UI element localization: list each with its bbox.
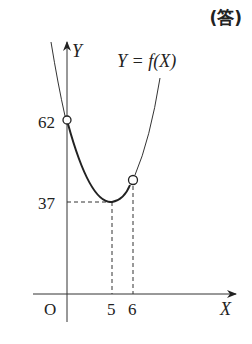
curve-left-branch (51, 42, 65, 116)
y-axis-label: Y (72, 41, 84, 61)
x-axis-label: X (219, 299, 232, 319)
y-tick-37: 37 (38, 194, 56, 213)
origin-label: O (44, 300, 56, 319)
x-tick-5: 5 (107, 300, 116, 319)
open-point-x0 (63, 116, 71, 124)
curve-label: Y = f(X) (117, 51, 176, 72)
y-tick-62: 62 (38, 113, 55, 132)
parabola-chart: Y Y = f(X) 62 37 O 5 6 X (0, 0, 252, 344)
open-point-x6 (129, 176, 138, 185)
curve-right-branch (135, 78, 160, 175)
x-tick-6: 6 (128, 300, 137, 319)
curve-highlighted-section (68, 124, 130, 202)
